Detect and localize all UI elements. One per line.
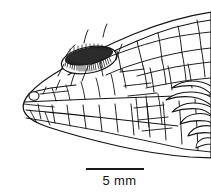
scale-bar: 5 mm — [0, 160, 211, 195]
scale-bar-label: 5 mm — [102, 173, 136, 188]
figure-container: 5 mm — [0, 0, 211, 195]
scale-bar-label-wrap: 5 mm — [0, 173, 211, 188]
lizard-head-lateral-drawing — [0, 0, 211, 165]
scale-bar-line — [86, 168, 144, 170]
nostril-icon — [29, 92, 39, 100]
